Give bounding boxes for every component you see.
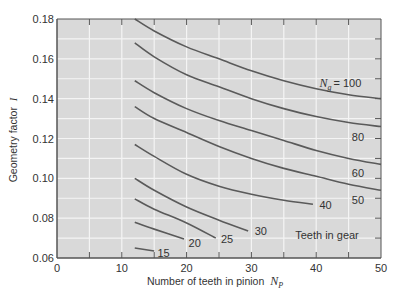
curve-label-30: 30 bbox=[255, 225, 267, 237]
x-axis-title: Number of teeth in pinion NP bbox=[147, 274, 283, 290]
y-axis-symbol: I bbox=[8, 97, 19, 102]
curve-label-60: 60 bbox=[352, 167, 364, 179]
curve-label-80: 80 bbox=[352, 131, 364, 143]
x-tick-label: 30 bbox=[245, 262, 257, 274]
y-tick-label: 0.12 bbox=[33, 133, 54, 145]
x-tick-label: 0 bbox=[54, 262, 60, 274]
x-axis-subscript: P bbox=[277, 281, 283, 290]
curve-label-50: 50 bbox=[352, 194, 364, 206]
curve-label-15: 15 bbox=[157, 247, 169, 259]
ng-subscript: g bbox=[327, 83, 331, 92]
x-axis-title-text: Number of teeth in pinion bbox=[147, 275, 264, 287]
geometry-factor-chart: 010203040500.060.080.100.120.140.160.18 … bbox=[0, 0, 407, 296]
teeth-in-gear-annotation: Teeth in gear bbox=[295, 229, 359, 241]
y-tick-label: 0.10 bbox=[33, 172, 54, 184]
y-axis-title-text: Geometry factor bbox=[7, 107, 19, 183]
x-tick-label: 40 bbox=[310, 262, 322, 274]
ng-value: = 100 bbox=[333, 77, 361, 89]
y-tick-label: 0.06 bbox=[33, 252, 54, 264]
x-tick-label: 20 bbox=[180, 262, 192, 274]
curve-label-20: 20 bbox=[189, 237, 201, 249]
y-tick-label: 0.16 bbox=[33, 53, 54, 65]
curve-label-25: 25 bbox=[221, 233, 233, 245]
curve-label-40: 40 bbox=[319, 199, 331, 211]
x-tick-label: 10 bbox=[116, 262, 128, 274]
y-axis-title: Geometry factor I bbox=[7, 97, 19, 182]
y-tick-label: 0.18 bbox=[33, 13, 54, 25]
y-tick-label: 0.08 bbox=[33, 212, 54, 224]
x-tick-label: 50 bbox=[375, 262, 387, 274]
y-tick-label: 0.14 bbox=[33, 93, 54, 105]
